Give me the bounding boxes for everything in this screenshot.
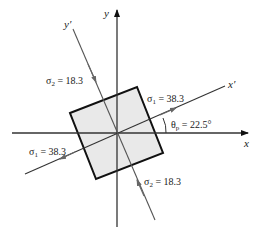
- theta-p-label: θp = 22.5°: [171, 119, 211, 132]
- sigma2-bottom-label: σ2 = 18.3: [144, 176, 181, 189]
- sigma2-top-label: σ2 = 18.3: [46, 75, 83, 88]
- x-axis-label: x: [243, 137, 249, 149]
- sigma2-arrow-top: [88, 64, 96, 82]
- y-axis-label: y: [103, 7, 109, 19]
- y-prime-label: y′: [63, 18, 72, 30]
- sigma1-arrow-right: [160, 108, 176, 115]
- x-prime-label: x′: [227, 78, 236, 90]
- theta-arc: [163, 118, 166, 133]
- stress-element-diagram: y x x′ y′ σ2 = 18.3 σ1 = 38.3 σ1 = 38.3 …: [0, 0, 258, 239]
- sigma1-right-label: σ1 = 38.3: [147, 93, 184, 106]
- sigma1-left-label: σ1 = 38.3: [29, 146, 66, 159]
- sigma2-arrow-bottom: [137, 180, 144, 196]
